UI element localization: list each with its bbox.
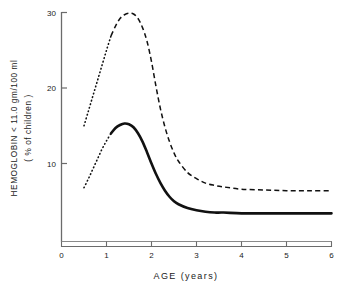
chart-canvas: 30 20 10 0 1 2 3 4 5 6 AGE (years) HEMOG… [0, 0, 338, 293]
lower-curve-solid [111, 123, 332, 213]
y-axis-title-line1: HEMOGLOBIN < 11.0 gm/100 ml [10, 60, 19, 197]
x-ticklabel-1: 1 [104, 251, 109, 260]
y-ticklabel-20: 20 [47, 84, 56, 93]
lower-curve-leadin [84, 133, 111, 187]
x-ticklabel-3: 3 [194, 251, 199, 260]
x-ticklabel-5: 5 [284, 251, 289, 260]
y-axis-title-line2: ( % of children ) [24, 94, 33, 162]
x-ticklabel-6: 6 [329, 251, 334, 260]
x-ticklabel-4: 4 [239, 251, 244, 260]
y-ticklabel-10: 10 [47, 160, 56, 169]
upper-curve-leadin [84, 36, 111, 126]
x-ticklabel-0: 0 [59, 251, 64, 260]
x-ticklabel-2: 2 [149, 251, 154, 260]
x-axis-title: AGE (years) [154, 271, 219, 281]
upper-curve-dashed [111, 13, 332, 191]
y-ticks-group [62, 13, 68, 164]
y-ticklabel-30: 30 [47, 9, 56, 18]
hemoglobin-age-chart: 30 20 10 0 1 2 3 4 5 6 AGE (years) HEMOG… [0, 0, 338, 293]
series-group [84, 13, 332, 213]
